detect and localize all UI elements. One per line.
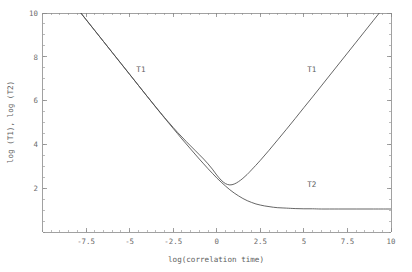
y-tick-label: 2 — [34, 184, 38, 193]
data-curve-t1 — [43, 0, 392, 185]
plot-frame — [43, 13, 392, 232]
axis-frame-rect — [43, 13, 392, 232]
plot-canvas: -7.5-5-2.502.557.510246810 T1T1T2 log(co… — [0, 0, 412, 272]
major-tick-group — [43, 13, 392, 232]
curve-annotation-t1: T1 — [307, 65, 317, 74]
y-tick-label: 10 — [29, 9, 38, 18]
data-curve-group — [43, 0, 392, 209]
x-tick-label: 5 — [302, 237, 306, 246]
curve-annotation-group: T1T1T2 — [136, 65, 316, 189]
x-tick-label: 7.5 — [341, 237, 354, 246]
x-tick-label: 2.5 — [254, 237, 267, 246]
x-tick-label: -7.5 — [77, 237, 95, 246]
y-axis-title: log (T1), log (T2) — [6, 81, 15, 163]
x-tick-label: -5 — [125, 237, 134, 246]
y-tick-label: 8 — [34, 53, 38, 62]
tick-label-group: -7.5-5-2.502.557.510246810 — [29, 9, 395, 246]
x-tick-label: 10 — [387, 237, 396, 246]
plot-figure: -7.5-5-2.502.557.510246810 T1T1T2 log(co… — [0, 0, 412, 272]
y-tick-label: 6 — [34, 96, 38, 105]
minor-tick-group — [43, 13, 392, 232]
curve-annotation-t1: T1 — [136, 65, 146, 74]
x-tick-label: 0 — [215, 237, 219, 246]
data-curve-t2 — [43, 0, 392, 209]
x-axis-title: log(correlation time) — [168, 255, 264, 264]
curve-annotation-t2: T2 — [307, 180, 316, 189]
x-tick-label: -2.5 — [164, 237, 182, 246]
y-tick-label: 4 — [34, 140, 39, 149]
